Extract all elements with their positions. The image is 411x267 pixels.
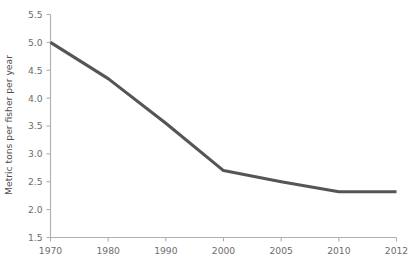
y-tick-label: 2.5 [28, 176, 43, 187]
x-axis-tick-labels: 1970198019902000200520102012 [39, 245, 408, 256]
y-tick-label: 5.0 [28, 37, 43, 48]
x-tick-label: 2010 [327, 245, 351, 256]
x-tick-label: 1990 [154, 245, 178, 256]
y-tick-label: 3.5 [28, 120, 43, 131]
y-axis-tick-marks [47, 15, 51, 238]
y-tick-label: 4.0 [28, 93, 43, 104]
y-tick-label: 3.0 [28, 148, 43, 159]
x-tick-label: 2012 [385, 245, 408, 256]
y-axis-tick-labels: 1.52.02.53.03.54.04.55.05.5 [28, 9, 43, 243]
x-tick-label: 2000 [212, 245, 236, 256]
y-tick-label: 2.0 [28, 204, 43, 215]
x-tick-label: 2005 [269, 245, 293, 256]
y-tick-label: 4.5 [28, 65, 43, 76]
y-axis-title: Metric tons per fisher per year [3, 55, 14, 195]
x-tick-label: 1980 [96, 245, 120, 256]
y-tick-label: 1.5 [28, 232, 43, 243]
chart-canvas: Metric tons per fisher per year 1.52.02.… [0, 0, 411, 267]
x-tick-label: 1970 [39, 245, 63, 256]
y-tick-label: 5.5 [28, 9, 43, 20]
line-chart-figure: Metric tons per fisher per year 1.52.02.… [0, 0, 411, 267]
y-axis-title-text: Metric tons per fisher per year [3, 55, 14, 195]
data-series-line [51, 42, 397, 191]
x-axis-tick-marks [51, 238, 397, 242]
